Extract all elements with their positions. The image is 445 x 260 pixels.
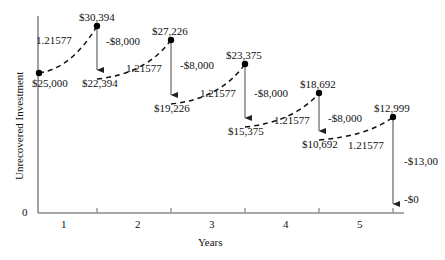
payment-label-4: -$8,000 [328, 113, 362, 124]
payment-label-3: -$8,000 [254, 88, 288, 99]
y-axis-origin-label: 0 [22, 207, 28, 218]
value-label-trough-3: $15,375 [228, 126, 264, 137]
x-axis-title: Years [198, 237, 223, 248]
value-label-trough-1: $22,394 [82, 78, 118, 89]
payment-label-2: -$8,000 [180, 60, 214, 71]
x-tick-label-3: 3 [209, 219, 215, 230]
growth-rate-label-4: 1.21577 [274, 115, 310, 126]
growth-rate-label-3: 1.21577 [200, 88, 236, 99]
investment-chart: Unrecovered Investment 0 1 2 3 4 5 Years… [0, 0, 445, 260]
payment-label-5: -$13,00 [404, 156, 438, 167]
growth-rate-label-2: 1.21577 [126, 63, 162, 74]
x-tick-label-5: 5 [357, 219, 363, 230]
value-label-trough-2: $19,226 [154, 103, 190, 114]
value-label-peak-4: $18,692 [300, 79, 336, 90]
payment-label-1: -$8,000 [106, 36, 140, 47]
growth-rate-label-5: 1.21577 [348, 140, 384, 151]
value-label-peak-1: $30,394 [79, 12, 115, 23]
value-label-terminal: -$0 [404, 194, 419, 205]
value-label-peak-2: $27,226 [152, 26, 188, 37]
value-label-start: $25,000 [32, 78, 68, 89]
x-tick-label-2: 2 [135, 219, 141, 230]
x-tick-label-4: 4 [283, 219, 289, 230]
x-tick-label-1: 1 [61, 219, 67, 230]
value-label-peak-5: $12,999 [374, 103, 410, 114]
growth-rate-label-1: 1.21577 [36, 35, 72, 46]
value-label-peak-3: $23,375 [226, 50, 262, 61]
value-label-trough-4: $10,692 [302, 139, 338, 150]
y-axis-title: Unrecovered Investment [14, 72, 25, 180]
